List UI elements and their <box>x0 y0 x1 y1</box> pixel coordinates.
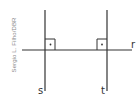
right-angle-dot-icon <box>50 44 52 46</box>
label-s: s <box>38 86 43 96</box>
right-angle-dot-icon <box>101 44 103 46</box>
image-credit: Sergio L. Filho/DBR <box>11 18 17 73</box>
right-angle-marker-s-r <box>45 39 55 50</box>
geometry-diagram <box>0 0 139 102</box>
right-angle-marker-t-r <box>97 39 107 50</box>
label-t: t <box>101 86 105 96</box>
label-r: r <box>131 40 135 50</box>
